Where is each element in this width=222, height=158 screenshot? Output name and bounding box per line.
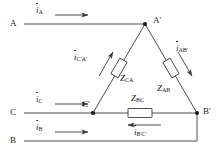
line-current-a: iA [36, 6, 43, 15]
line-current-c: iC [36, 95, 43, 104]
line-current-b: iB [36, 123, 43, 132]
line-current-c-subscript: C [39, 98, 43, 104]
arrow-phase-current-ab [178, 52, 192, 76]
impedance-box-bc [128, 109, 152, 118]
line-current-c-symbol: i [36, 95, 39, 104]
impedance-box-ab [163, 58, 179, 78]
phase-current-bc: iB'C' [134, 128, 147, 137]
phase-current-bc-subscript: B'C' [137, 131, 147, 137]
phase-current-ab-subscript: AB' [179, 47, 188, 53]
phase-current-ab: iAB' [176, 44, 188, 53]
phase-current-ca: iC'A' [74, 53, 87, 62]
node-dot-a-prime [143, 22, 147, 26]
node-c-prime: C' [82, 100, 90, 109]
phase-current-bc-symbol: i [134, 128, 137, 137]
line-current-a-symbol: i [36, 6, 39, 15]
line-current-b-subscript: B [39, 126, 43, 132]
arrow-phase-current-ca [99, 52, 113, 76]
line-current-a-subscript: A [39, 9, 43, 15]
circuit-diagram-canvas [0, 0, 222, 158]
terminal-b: B [10, 136, 16, 145]
line-current-b-symbol: i [36, 123, 39, 132]
terminal-a: A [10, 19, 17, 28]
impedance-bc-subscript: BC [136, 97, 144, 103]
node-a-prime: A' [153, 16, 161, 25]
phase-current-ca-symbol: i [74, 53, 77, 62]
phase-current-ca-subscript: C'A' [77, 56, 88, 62]
node-b-prime: B' [203, 107, 211, 116]
impedance-ab-subscript: AB [162, 87, 170, 93]
phase-current-ab-symbol: i [176, 44, 179, 53]
impedance-bc: ZBC [131, 94, 144, 103]
impedance-ab: ZAB [157, 84, 170, 93]
impedance-ca: ZCA [120, 74, 133, 83]
node-dot-b-prime [195, 111, 199, 115]
impedance-ca-subscript: CA [125, 77, 133, 83]
terminal-c: C [10, 108, 16, 117]
node-dot-c-prime [91, 111, 95, 115]
